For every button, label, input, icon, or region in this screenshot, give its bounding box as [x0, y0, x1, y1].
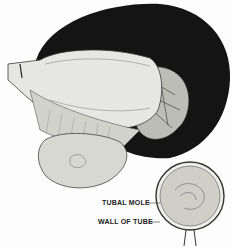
illustration-canvas: TUBAL MOLE WALL OF TUBE — [0, 0, 232, 248]
label-tubal-mole: TUBAL MOLE — [102, 199, 150, 206]
anatomical-illustration — [0, 0, 232, 248]
label-wall-of-tube: WALL OF TUBE — [98, 218, 153, 225]
cross-section-inset — [156, 162, 224, 246]
ovary — [38, 133, 126, 187]
